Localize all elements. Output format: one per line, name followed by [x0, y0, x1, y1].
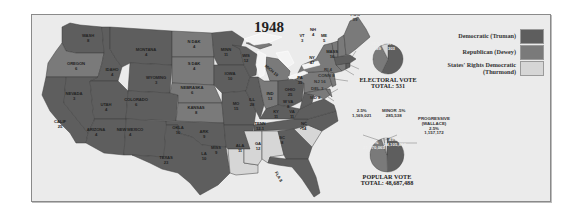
election-map-panel: 1948 WASH8 OREGON6 CALIF25 IDAHO4 NEVADA… [31, 14, 551, 202]
state-label-conn: CONN 8 [318, 73, 335, 78]
state-label-arizona: ARIZONA4 [87, 128, 105, 137]
state-label-tenn: TENN12-1 [255, 122, 266, 131]
state-label-colorado: COLORADO6 [124, 98, 148, 107]
state-label-ny: NY47 [309, 56, 315, 65]
popular-vote-title: POPULAR VOTETOTAL: 48,687,488 [361, 174, 414, 187]
state-label-pa: PA35 [297, 76, 302, 85]
state-label-ohio: OHIO25 [285, 88, 295, 97]
state-label-n-dak: N DAK4 [188, 40, 201, 49]
popular-thurmond-note: 2.5%1,169,021 [352, 109, 372, 119]
election-year-title: 1948 [254, 19, 284, 36]
legend-label-states-rights: States' Rights Democratic(Thurmond) [448, 62, 516, 75]
state-label-utah: UTAH4 [101, 103, 112, 112]
popular-dem-note: 49.5%24,105,812 [384, 138, 406, 148]
state-label-nh: NH4 [310, 28, 316, 37]
state-label-vt: VT3 [299, 34, 304, 43]
state-label-wash: WASH8 [82, 34, 94, 43]
state-label-mo: MO15 [233, 102, 240, 111]
electoral-vote-title: ELECTORAL VOTETOTAL: 531 [359, 77, 416, 90]
state-label-montana: MONTANA4 [136, 48, 156, 57]
state-new-mexico [124, 119, 166, 157]
legend-swatch-democratic [520, 29, 544, 44]
state-label-sc: SC8 [279, 136, 285, 145]
state-utah [90, 81, 128, 119]
state-label-me: ME5 [321, 34, 327, 43]
legend-label-republican: Republican (Dewey) [463, 49, 516, 56]
state-label-ri: RI 4 [324, 67, 332, 72]
state-label-texas: TEXAS23 [159, 156, 172, 165]
state-label-ark: ARK9 [200, 130, 209, 139]
legend-states-rights: States' Rights Democratic(Thurmond) [448, 61, 544, 76]
state-label-wyoming: WYOMING3 [146, 76, 166, 85]
state-label-okla: OKLA10 [172, 126, 183, 135]
legend-swatch-states-rights [520, 61, 544, 76]
state-label-ga: GA12 [255, 142, 261, 151]
state-label-w-va: W VA8 [283, 100, 293, 109]
electoral-dem-note: 57%303 [387, 42, 396, 52]
state-label-nebraska: NEBRASKA6 [181, 86, 204, 95]
legend-label-democratic: Democratic (Truman) [458, 33, 516, 40]
state-label-del: DEL 3 [311, 86, 323, 91]
state-label-mass: MASS16 [326, 50, 338, 59]
state-label-wis: WIS12 [242, 54, 250, 63]
legend-swatch-republican [520, 45, 544, 60]
popular-rep-note: 45%21,970,065 [363, 141, 385, 151]
state-label-la: LA10 [201, 152, 206, 161]
state-label-md: MD 8 [310, 95, 321, 100]
legend-democratic: Democratic (Truman) [458, 29, 544, 44]
state-label-nevada: NEVADA3 [66, 92, 83, 101]
state-label-iowa: IOWA10 [225, 72, 236, 81]
state-me [344, 17, 370, 55]
state-label-oregon: OREGON6 [67, 62, 85, 71]
electoral-rep-note: 35.5%189 [371, 42, 383, 52]
state-label-miss: MISS9 [211, 146, 221, 155]
state-label-ind: IND13 [267, 92, 274, 101]
state-label-calif: CALIF25 [54, 120, 66, 129]
state-label-kansas: KANSAS8 [187, 106, 204, 115]
popular-minor-note: MINOR .5%285,538 [382, 109, 405, 119]
state-label-va: VA11 [289, 110, 294, 119]
electoral-sr-note: 7.5%39 [350, 14, 360, 23]
legend-republican: Republican (Dewey) [463, 45, 544, 60]
state-label-nc: NC14 [301, 122, 307, 131]
state-label-minn: MINN11 [221, 48, 231, 57]
state-label-s-dak: S DAK4 [188, 62, 201, 71]
state-label-nj: NJ 16 [314, 79, 326, 84]
state-label-new-mexico: NEW MEXICO4 [117, 128, 143, 137]
state-label-ky: KY11 [273, 110, 279, 119]
state-ri [346, 63, 350, 69]
state-label-ill: ILL28 [249, 98, 255, 107]
state-label-ala: ALA11 [236, 144, 244, 153]
popular-progressive-note: PROGRESSIVE(WALLACE)2.5%1,157,172 [418, 117, 450, 136]
state-label-idaho: IDAHO4 [106, 68, 119, 77]
lake-michigan [256, 51, 266, 77]
